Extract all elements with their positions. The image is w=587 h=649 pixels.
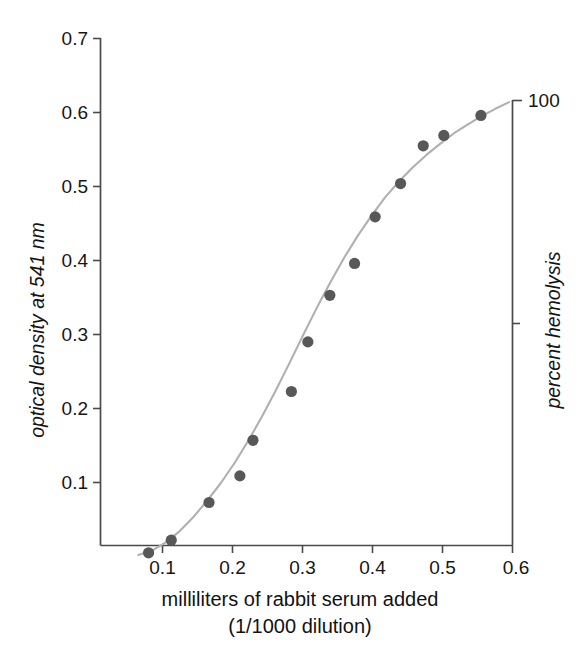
x-tick-label-2: 0.3	[289, 557, 315, 578]
x-tick-label-1: 0.2	[219, 557, 245, 578]
sigmoid-fit-curve	[138, 102, 509, 555]
y-tick-label-2: 0.5	[62, 176, 88, 197]
data-point	[203, 497, 214, 508]
y-tick-label-3: 0.4	[62, 250, 89, 271]
x-tick-label-0: 0.1	[149, 557, 175, 578]
y-tick-label-6: 0.1	[62, 472, 88, 493]
data-point	[349, 258, 360, 269]
data-points-group	[143, 110, 487, 559]
data-point	[395, 178, 406, 189]
x-tick-label-4: 0.5	[429, 557, 455, 578]
y-axis-left-ticks	[93, 39, 101, 483]
y-axis-left-title: optical density at 541 nm	[26, 222, 48, 438]
data-point	[166, 535, 177, 546]
data-point	[234, 470, 245, 481]
hemolysis-titration-chart: 0.7 0.6 0.5 0.4 0.3 0.2 0.1 0.1 0.2 0.3 …	[0, 0, 587, 649]
data-point	[247, 435, 258, 446]
data-point	[324, 290, 335, 301]
y-tick-label-0: 0.7	[62, 28, 88, 49]
x-axis-tick-labels: 0.1 0.2 0.3 0.4 0.5 0.6	[149, 557, 529, 578]
chart-figure: 0.7 0.6 0.5 0.4 0.3 0.2 0.1 0.1 0.2 0.3 …	[0, 0, 587, 649]
data-point	[418, 140, 429, 151]
y-tick-label-5: 0.2	[62, 398, 88, 419]
y-axis-right-ticks	[513, 101, 523, 324]
x-axis-title-line2: (1/1000 dilution)	[228, 615, 371, 637]
y-tick-label-1: 0.6	[62, 102, 88, 123]
y-axis-right-title: percent hemolysis	[542, 251, 564, 409]
data-point	[438, 130, 449, 141]
x-tick-label-3: 0.4	[359, 557, 386, 578]
y2-tick-label-100: 100	[528, 90, 560, 111]
x-axis-title-line1: milliliters of rabbit serum added	[162, 588, 439, 610]
data-point	[143, 547, 154, 558]
data-point	[475, 110, 486, 121]
data-point	[302, 336, 313, 347]
data-point	[286, 386, 297, 397]
y-axis-left-tick-labels: 0.7 0.6 0.5 0.4 0.3 0.2 0.1	[62, 28, 89, 493]
x-axis-ticks	[163, 546, 513, 554]
y-tick-label-4: 0.3	[62, 324, 88, 345]
data-point	[370, 211, 381, 222]
x-tick-label-5: 0.6	[503, 557, 529, 578]
